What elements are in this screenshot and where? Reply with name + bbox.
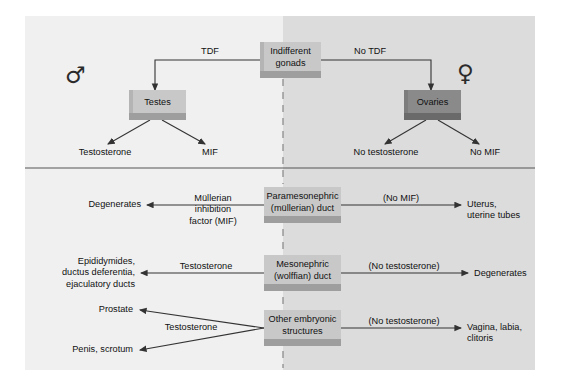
figure-frame: ♂ ♀ Indifferent gonads Testes Ovaries TD…: [25, 16, 535, 370]
box-shadow: [129, 113, 186, 120]
result-line-1: Uterus,: [467, 199, 497, 209]
connector-ovaries-to-no-testosterone: [385, 120, 426, 144]
label-row2-right-result: Degenerates: [474, 268, 535, 279]
box-line-1: Mesonephric: [276, 259, 329, 269]
box-mesonephric-duct-label: Mesonephric (wolffian) duct: [274, 259, 331, 287]
female-symbol-icon: ♀: [457, 62, 474, 85]
result-line-2: clitoris: [467, 333, 493, 343]
box-mesonephric-duct[interactable]: Mesonephric (wolffian) duct: [264, 255, 341, 291]
label-testosterone-output: Testosterone: [53, 147, 157, 158]
label-row1-right-result: Uterus, uterine tubes: [467, 199, 535, 222]
box-line-1: Paramesonephric: [266, 191, 338, 201]
box-indifferent-gonads-label: Indifferent gonads: [270, 46, 311, 74]
label-tdf: TDF: [180, 46, 240, 57]
label-row2-right-arrow: (No testosterone): [347, 261, 461, 272]
arrow-label-line-2: inhibition: [195, 204, 231, 214]
label-no-tdf: No TDF: [335, 46, 405, 57]
box-ovaries-label: Ovaries: [417, 97, 449, 113]
label-no-mif-output: No MIF: [453, 147, 517, 158]
connector-gonads-to-ovaries: [321, 60, 431, 90]
box-line-2: structures: [282, 326, 322, 336]
result-line-1: Epididymides,: [78, 256, 135, 266]
box-paramesonephric-duct[interactable]: Paramesonephric (müllerian) duct: [264, 187, 341, 223]
box-other-embryonic-structures-label: Other embryonic structures: [269, 314, 337, 342]
box-ovaries[interactable]: Ovaries: [404, 90, 461, 120]
connector-testes-to-testosterone: [108, 120, 150, 144]
box-paramesonephric-duct-label: Paramesonephric (müllerian) duct: [266, 191, 338, 219]
connector-ovaries-to-no-mif: [438, 120, 479, 144]
result-line-1: Vagina, labia,: [467, 322, 522, 332]
result-line-2: ductus deferentia,: [62, 267, 135, 277]
box-line-2: (müllerian) duct: [271, 203, 334, 213]
label-mif-output: MIF: [180, 147, 240, 158]
connector-testes-to-mif: [162, 120, 205, 144]
label-row3-left-result-upper: Prostate: [43, 304, 133, 315]
box-indifferent-gonads[interactable]: Indifferent gonads: [260, 42, 321, 78]
label-row1-left-arrow: Müllerian inhibition factor (MIF): [165, 193, 261, 227]
label-row2-left-result: Epididymides, ductus deferentia, ejacula…: [25, 256, 135, 290]
box-line-2: (wolffian) duct: [274, 271, 331, 281]
box-line-1: Indifferent: [270, 46, 311, 56]
box-shadow: [404, 113, 461, 120]
label-row3-right-result: Vagina, labia, clitoris: [467, 322, 535, 345]
box-line-2: gonads: [275, 58, 305, 68]
connector-gonads-to-testes: [155, 60, 260, 90]
result-line-2: uterine tubes: [467, 210, 520, 220]
result-line-3: ejaculatory ducts: [66, 279, 135, 289]
box-testes[interactable]: Testes: [129, 90, 186, 120]
label-row2-left-arrow: Testosterone: [155, 261, 257, 272]
label-row1-right-arrow: (No MIF): [355, 193, 447, 204]
label-no-testosterone-output: No testosterone: [327, 147, 445, 158]
arrow-label-line-3: factor (MIF): [189, 216, 236, 226]
box-testes-label: Testes: [144, 97, 171, 113]
label-row3-left-result-lower: Penis, scrotum: [33, 344, 133, 355]
box-other-embryonic-structures[interactable]: Other embryonic structures: [264, 310, 341, 346]
label-row3-left-arrow: Testosterone: [140, 322, 242, 333]
label-row1-left-result: Degenerates: [45, 199, 141, 210]
male-symbol-icon: ♂: [65, 64, 86, 87]
label-row3-right-arrow: (No testosterone): [347, 316, 461, 327]
arrow-label-line-1: Müllerian: [194, 193, 231, 203]
box-line-1: Other embryonic: [269, 314, 337, 324]
